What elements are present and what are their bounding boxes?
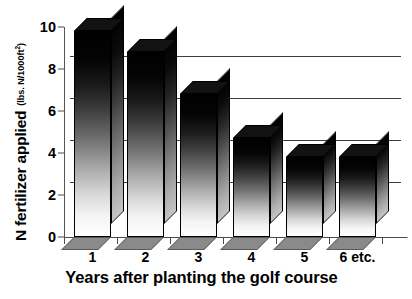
- bar: [339, 157, 376, 237]
- bar-base-shadow: [167, 237, 217, 250]
- bar: [127, 52, 164, 237]
- y-axis-tick-label: 8: [32, 62, 56, 77]
- x-axis-tick-mark-origin: [64, 237, 65, 244]
- y-axis-units-post: ): [16, 43, 26, 46]
- x-axis-tick-mark: [382, 237, 383, 244]
- y-axis-tick-label: 0: [32, 230, 56, 245]
- y-axis-tick-mark: [58, 69, 64, 70]
- bar-base-shadow: [114, 237, 164, 250]
- y-axis-line: [64, 27, 65, 238]
- bar: [180, 94, 217, 237]
- y-axis-tick-label: 6: [32, 104, 56, 119]
- plot-area: 0246810 123456 etc.: [44, 10, 403, 262]
- y-axis-title-main: N fertilizer applied: [12, 111, 30, 241]
- x-axis-tick-mark: [223, 237, 224, 244]
- bar-front-face: [233, 138, 270, 237]
- x-axis-tick-label: 4: [248, 249, 256, 265]
- y-axis-tick-mark: [58, 195, 64, 196]
- bar: [233, 138, 270, 237]
- y-axis-tick-label: 10: [32, 20, 56, 35]
- x-axis-tick-mark: [329, 237, 330, 244]
- y-axis-tick-label: 4: [32, 146, 56, 161]
- floor-right-edge: [394, 224, 412, 238]
- x-axis-tick-label: 3: [195, 249, 203, 265]
- y-axis-units-exponent: 2: [14, 46, 21, 50]
- y-axis-title-units: (lbs. N/1000ft2): [14, 43, 26, 106]
- bar-front-face: [286, 157, 323, 237]
- x-axis-tick-label: 1: [89, 249, 97, 265]
- x-axis-tick-mark: [117, 237, 118, 244]
- y-axis-tick-label: 2: [32, 188, 56, 203]
- bar-side-face: [164, 26, 177, 224]
- bar: [74, 31, 111, 237]
- x-axis-tick-label: 6 etc.: [340, 249, 376, 265]
- y-axis-tick-mark: [58, 153, 64, 154]
- y-axis-units-pre: (lbs. N/1000ft: [16, 50, 26, 106]
- bar-base-shadow: [61, 237, 111, 250]
- x-axis-tick-mark: [276, 237, 277, 244]
- bar-front-face: [74, 31, 111, 237]
- bar-base-shadow: [273, 237, 323, 250]
- x-axis-tick-label: 5: [301, 249, 309, 265]
- y-axis-title-block: N fertilizer applied (lbs. N/1000ft2): [0, 0, 44, 262]
- y-axis-tick-mark: [58, 27, 64, 28]
- bar-side-face: [111, 5, 124, 224]
- x-axis-title: Years after planting the golf course: [0, 268, 403, 287]
- x-axis-tick-label: 2: [142, 249, 150, 265]
- bar-front-face: [127, 52, 164, 237]
- bar-front-face: [180, 94, 217, 237]
- y-axis-tick-mark: [58, 111, 64, 112]
- bar-base-shadow: [220, 237, 270, 250]
- bar: [286, 157, 323, 237]
- x-axis-tick-mark: [170, 237, 171, 244]
- bar-front-face: [339, 157, 376, 237]
